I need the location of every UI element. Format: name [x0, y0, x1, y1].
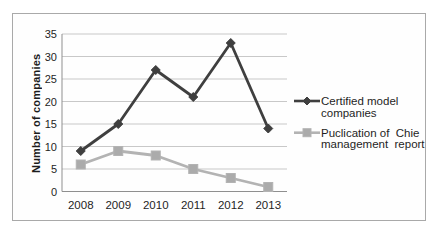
x-tick-label: 2009 [105, 199, 131, 211]
data-point-marker [76, 160, 85, 169]
y-tick-label: 35 [45, 28, 57, 40]
series-line [81, 43, 269, 151]
data-point-marker [226, 174, 235, 183]
legend-label: Certified model [321, 95, 398, 107]
x-tick-label: 2011 [181, 199, 206, 211]
x-tick-label: 2012 [218, 199, 244, 211]
y-axis-title: Number of companies [29, 32, 43, 194]
y-tick-label: 10 [45, 141, 57, 153]
y-tick-label: 30 [45, 51, 57, 63]
data-point-marker [114, 147, 123, 156]
page: { "chart_data": { "type": "line", "title… [0, 0, 438, 234]
data-point-marker [264, 124, 273, 133]
x-tick-label: 2013 [255, 199, 281, 211]
x-tick-label: 2008 [68, 199, 94, 211]
data-point-marker [303, 129, 311, 137]
chart-frame: Number of companies 05101520253035200820… [12, 13, 426, 221]
legend-label: Puclication of Chie [321, 127, 419, 139]
line-chart: 05101520253035200820092010201120122013Ce… [13, 14, 425, 220]
data-point-marker [151, 151, 160, 160]
data-point-marker [189, 165, 198, 174]
y-tick-label: 15 [45, 118, 57, 130]
data-point-marker [303, 97, 311, 105]
y-tick-label: 0 [51, 186, 57, 198]
legend-label: companies [321, 107, 377, 119]
x-tick-label: 2010 [143, 199, 169, 211]
y-tick-label: 25 [45, 73, 57, 85]
y-tick-label: 20 [45, 96, 57, 108]
legend-label: management report [321, 138, 425, 150]
data-point-marker [264, 183, 273, 192]
y-tick-label: 5 [51, 163, 57, 175]
